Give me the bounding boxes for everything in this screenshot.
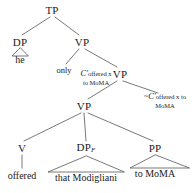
branch-tp-vp-top xyxy=(55,17,79,35)
node-dp-subject: DP xyxy=(13,37,27,48)
branch-vptop-specifier xyxy=(66,49,79,64)
terminal-that-modigliani: that Modigliani xyxy=(55,173,117,183)
node-dp-focus-label: DP xyxy=(77,141,91,153)
terminal-to-moma: to MoMA xyxy=(135,169,175,179)
triangle-to-moma xyxy=(130,155,189,168)
node-tp: TP xyxy=(45,5,58,16)
node-dp-focus-subscript: F xyxy=(91,146,95,154)
branch-vplow-dp xyxy=(84,113,86,141)
annotation-only: only xyxy=(56,66,71,75)
c-prime-left-gloss-line2: to MoMA xyxy=(83,78,109,85)
branch-vplow-pp xyxy=(88,113,153,141)
triangle-that-modigliani xyxy=(48,156,124,172)
terminal-he: he xyxy=(15,55,24,65)
terminal-offered: offered xyxy=(8,171,37,181)
c-prime-right-gloss-line1: offered x to xyxy=(156,93,186,100)
c-prime-left-gloss-line1: offered x xyxy=(88,70,112,77)
c-prime-right-gloss-line2: MoMA xyxy=(155,102,175,109)
annotation-c-prime-right: ~C′offered x to MoMA xyxy=(144,91,186,110)
annotation-c-prime-left: C′offered x to MoMA xyxy=(80,68,111,87)
branch-vplow-v xyxy=(24,113,81,141)
node-vp-top: VP xyxy=(75,37,89,48)
node-vp-mid: VP xyxy=(113,69,127,80)
branch-tp-dp xyxy=(22,17,50,35)
branch-vptop-vpmid xyxy=(85,49,117,67)
node-pp: PP xyxy=(149,143,162,154)
node-v-head: V xyxy=(18,143,26,154)
node-vp-low: VP xyxy=(77,101,91,112)
syntax-tree-figure: TP DP VP VP VP V DPF PP he offered that … xyxy=(0,0,196,193)
node-dp-focus: DPF xyxy=(77,142,96,154)
